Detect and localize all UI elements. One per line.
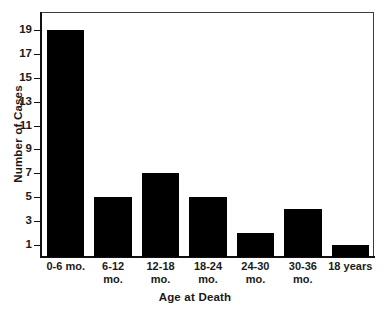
y-axis-tick	[34, 78, 41, 79]
x-axis-title: Age at Death	[0, 291, 390, 303]
x-axis-tick-labels: 0-6 mo.6-12mo.12-18mo.18-24mo.24-30mo.30…	[42, 260, 374, 292]
bar	[47, 30, 84, 257]
y-axis-tick	[34, 102, 41, 103]
bar-series	[42, 12, 374, 257]
y-axis-tick-label: 3	[0, 215, 32, 227]
bar-chart-figure: Number of Cases 135791113151719 0-6 mo.6…	[0, 0, 390, 312]
y-axis-tick	[34, 245, 41, 246]
y-axis-tick-label: 17	[0, 48, 32, 60]
bar	[189, 197, 226, 257]
y-axis-tick-label: 11	[0, 120, 32, 132]
y-axis-tick	[34, 173, 41, 174]
y-axis-tick	[34, 197, 41, 198]
bar	[284, 209, 321, 257]
y-axis-tick-label: 7	[0, 167, 32, 179]
bar	[142, 173, 179, 257]
bar	[237, 233, 274, 257]
bar	[94, 197, 131, 257]
y-axis-tick-label: 9	[0, 143, 32, 155]
y-axis-tick-label: 13	[0, 96, 32, 108]
y-axis-tick	[34, 126, 41, 127]
y-axis-tick	[34, 54, 41, 55]
y-axis-tick-label: 19	[0, 24, 32, 36]
y-axis-tick	[34, 30, 41, 31]
y-axis-tick	[34, 149, 41, 150]
y-axis-tick-label: 5	[0, 191, 32, 203]
y-axis-tick-label: 1	[0, 239, 32, 251]
bar	[332, 245, 369, 257]
y-axis-tick	[34, 221, 41, 222]
x-axis-tick-label: 18 years	[319, 260, 382, 273]
y-axis-tick-label: 15	[0, 72, 32, 84]
